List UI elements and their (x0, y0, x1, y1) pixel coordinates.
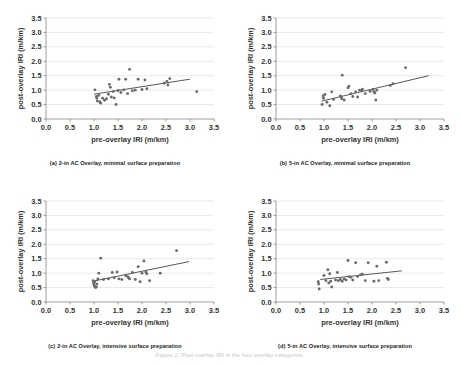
svg-text:1.0: 1.0 (261, 86, 271, 95)
svg-text:1.5: 1.5 (113, 306, 123, 315)
svg-text:2.5: 2.5 (31, 42, 41, 51)
svg-text:0.0: 0.0 (271, 123, 281, 132)
svg-text:post-overlay IRI (m/km): post-overlay IRI (m/km) (16, 210, 25, 292)
panel-d-caption: (d)5-in AC Overlay, intensive surface pr… (230, 343, 460, 349)
chart-b: 0.00.51.01.52.02.53.03.50.00.51.01.52.02… (244, 12, 450, 152)
svg-text:2.0: 2.0 (31, 240, 41, 249)
svg-text:0.5: 0.5 (31, 283, 41, 292)
svg-text:3.0: 3.0 (31, 28, 41, 37)
svg-text:2.0: 2.0 (261, 240, 271, 249)
svg-text:0.5: 0.5 (65, 123, 75, 132)
panel-grid: 0.00.51.01.52.02.53.03.50.00.51.01.52.02… (0, 0, 460, 348)
svg-text:2.5: 2.5 (261, 42, 271, 51)
panel-c: 0.00.51.01.52.02.53.03.50.00.51.01.52.02… (0, 183, 230, 366)
svg-text:1.5: 1.5 (343, 306, 353, 315)
figure-caption: Figure 2. Post-overlay IRI in the four o… (0, 352, 460, 361)
panel-c-tag: (c) (48, 343, 55, 349)
svg-text:pre-overlay IRI (m/km): pre-overlay IRI (m/km) (91, 135, 169, 144)
scatter-plot-b: 0.00.51.01.52.02.53.03.50.00.51.01.52.02… (244, 12, 450, 152)
svg-text:pre-overlay IRI (m/km): pre-overlay IRI (m/km) (321, 135, 399, 144)
svg-text:0.5: 0.5 (261, 283, 271, 292)
svg-text:1.0: 1.0 (31, 269, 41, 278)
svg-text:2.5: 2.5 (161, 123, 171, 132)
chart-a: 0.00.51.01.52.02.53.03.50.00.51.01.52.02… (14, 12, 220, 152)
svg-text:2.0: 2.0 (261, 57, 271, 66)
svg-text:1.0: 1.0 (89, 306, 99, 315)
svg-text:post-overlay IRI (m/km): post-overlay IRI (m/km) (246, 210, 255, 292)
svg-text:post-overlay IRI (m/km): post-overlay IRI (m/km) (16, 27, 25, 109)
panel-a-caption-text: 2-in AC Overlay, minimal surface prepara… (59, 160, 180, 166)
svg-text:3.0: 3.0 (415, 306, 425, 315)
svg-text:2.0: 2.0 (137, 306, 147, 315)
svg-text:3.0: 3.0 (185, 306, 195, 315)
panel-b-caption-text: 5-in AC Overlay, minimal surface prepara… (289, 160, 410, 166)
panel-a-caption: (a)2-in AC Overlay, minimal surface prep… (0, 160, 230, 166)
svg-text:3.0: 3.0 (415, 123, 425, 132)
svg-text:2.5: 2.5 (391, 123, 401, 132)
svg-text:pre-overlay IRI (m/km): pre-overlay IRI (m/km) (91, 318, 169, 327)
svg-text:3.5: 3.5 (439, 123, 449, 132)
svg-text:3.5: 3.5 (261, 14, 271, 23)
svg-text:0.5: 0.5 (261, 100, 271, 109)
svg-text:0.5: 0.5 (31, 100, 41, 109)
svg-text:3.5: 3.5 (31, 197, 41, 206)
svg-text:3.5: 3.5 (209, 123, 219, 132)
svg-text:1.0: 1.0 (319, 306, 329, 315)
svg-text:1.5: 1.5 (31, 254, 41, 263)
svg-text:3.0: 3.0 (261, 211, 271, 220)
panel-a-tag: (a) (50, 160, 57, 166)
svg-text:1.5: 1.5 (343, 123, 353, 132)
chart-c: 0.00.51.01.52.02.53.03.50.00.51.01.52.02… (14, 195, 220, 335)
svg-text:0.0: 0.0 (41, 123, 51, 132)
svg-text:2.5: 2.5 (161, 306, 171, 315)
scatter-plot-d: 0.00.51.01.52.02.53.03.50.00.51.01.52.02… (244, 195, 450, 335)
svg-text:1.5: 1.5 (261, 71, 271, 80)
svg-text:1.5: 1.5 (31, 71, 41, 80)
svg-text:3.5: 3.5 (31, 14, 41, 23)
svg-text:1.5: 1.5 (113, 123, 123, 132)
svg-text:1.0: 1.0 (319, 123, 329, 132)
svg-text:2.5: 2.5 (391, 306, 401, 315)
scatter-plot-a: 0.00.51.01.52.02.53.03.50.00.51.01.52.02… (14, 12, 220, 152)
svg-text:0.5: 0.5 (295, 306, 305, 315)
svg-text:2.0: 2.0 (31, 57, 41, 66)
svg-text:1.0: 1.0 (31, 86, 41, 95)
svg-text:3.0: 3.0 (31, 211, 41, 220)
panel-c-caption: (c)2-in AC Overlay, intensive surface pr… (0, 343, 230, 349)
svg-text:0.0: 0.0 (41, 306, 51, 315)
svg-text:pre-overlay IRI (m/km): pre-overlay IRI (m/km) (321, 318, 399, 327)
chart-d: 0.00.51.01.52.02.53.03.50.00.51.01.52.02… (244, 195, 450, 335)
svg-text:3.5: 3.5 (439, 306, 449, 315)
panel-c-caption-text: 2-in AC Overlay, intensive surface prepa… (57, 343, 181, 349)
figure-container: 0.00.51.01.52.02.53.03.50.00.51.01.52.02… (0, 0, 460, 366)
svg-text:post-overlay IRI (m/km): post-overlay IRI (m/km) (246, 27, 255, 109)
svg-text:2.5: 2.5 (261, 225, 271, 234)
svg-text:2.0: 2.0 (367, 306, 377, 315)
svg-text:0.5: 0.5 (295, 123, 305, 132)
panel-b: 0.00.51.01.52.02.53.03.50.00.51.01.52.02… (230, 0, 460, 183)
svg-text:2.0: 2.0 (367, 123, 377, 132)
svg-text:0.5: 0.5 (65, 306, 75, 315)
scatter-plot-c: 0.00.51.01.52.02.53.03.50.00.51.01.52.02… (14, 195, 220, 335)
svg-text:1.0: 1.0 (89, 123, 99, 132)
panel-b-caption: (b)5-in AC Overlay, minimal surface prep… (230, 160, 460, 166)
svg-text:3.5: 3.5 (261, 197, 271, 206)
svg-text:1.0: 1.0 (261, 269, 271, 278)
panel-d-tag: (d) (278, 343, 285, 349)
panel-b-tag: (b) (280, 160, 287, 166)
panel-d: 0.00.51.01.52.02.53.03.50.00.51.01.52.02… (230, 183, 460, 366)
panel-a: 0.00.51.01.52.02.53.03.50.00.51.01.52.02… (0, 0, 230, 183)
svg-text:3.0: 3.0 (185, 123, 195, 132)
svg-text:3.5: 3.5 (209, 306, 219, 315)
svg-text:1.5: 1.5 (261, 254, 271, 263)
svg-text:0.0: 0.0 (271, 306, 281, 315)
svg-text:2.0: 2.0 (137, 123, 147, 132)
svg-text:3.0: 3.0 (261, 28, 271, 37)
panel-d-caption-text: 5-in AC Overlay, intensive surface prepa… (287, 343, 411, 349)
svg-text:2.5: 2.5 (31, 225, 41, 234)
